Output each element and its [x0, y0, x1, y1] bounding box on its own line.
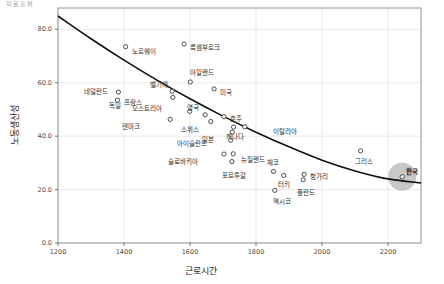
point-label-독일: 독일 — [109, 103, 121, 110]
labor-productivity-scatter-chart: 자료출처 근로시간 노동생산성 0.020.040.060.080.012001… — [0, 0, 444, 284]
x-tick-label: 1800 — [242, 248, 270, 256]
x-tick-label: 1400 — [110, 248, 138, 256]
x-tick-label: 1600 — [176, 248, 204, 256]
data-point-터키 — [282, 173, 286, 177]
data-markers — [115, 42, 404, 193]
data-point-체코 — [271, 169, 275, 173]
y-tick-label: 0.0 — [0, 239, 52, 247]
x-tick-label: 2200 — [374, 248, 402, 256]
point-label-터키: 터키 — [278, 182, 290, 189]
data-point-미국 — [212, 87, 216, 91]
data-point-스위스 — [209, 119, 213, 123]
tick-marks — [55, 29, 388, 246]
point-label-영국: 영국 — [187, 105, 199, 112]
point-label-포르투갈: 포르투갈 — [222, 173, 246, 180]
x-tick-label: 1200 — [44, 248, 72, 256]
point-label-룩셈부르크: 룩셈부르크 — [190, 45, 220, 52]
data-point-포르투갈 — [230, 159, 234, 163]
data-point-아일랜드 — [188, 80, 192, 84]
data-point-노르웨이 — [124, 45, 128, 49]
data-point-그리스 — [359, 149, 363, 153]
point-label-아이슬란드: 아이슬란드 — [177, 141, 207, 148]
point-label-벨기에: 벨기에 — [150, 82, 168, 89]
data-point-룩셈부르크 — [182, 42, 186, 46]
y-tick-label: 20.0 — [0, 186, 52, 194]
point-label-덴마크: 덴마크 — [122, 124, 140, 131]
data-point-슬로바키아 — [222, 152, 226, 156]
y-tick-label: 80.0 — [0, 25, 52, 33]
data-point-한국 — [400, 175, 404, 179]
point-label-한국: 한국 — [406, 169, 418, 176]
data-point-독일 — [171, 95, 175, 99]
data-point-영국 — [203, 113, 207, 117]
data-point-네덜란드 — [116, 90, 120, 94]
data-point-헝가리 — [302, 172, 306, 176]
data-point-뉴질랜드 — [231, 152, 235, 156]
data-point-폴란드 — [301, 178, 305, 182]
point-label-폴란드: 폴란드 — [297, 190, 315, 197]
point-label-캐나다: 캐나다 — [226, 134, 244, 141]
x-tick-label: 2000 — [308, 248, 336, 256]
data-point-이탈리아 — [243, 125, 247, 129]
point-label-호주: 호주 — [230, 116, 242, 123]
point-label-슬로바키아: 슬로바키아 — [168, 159, 198, 166]
point-label-체코: 체코 — [267, 160, 279, 167]
plot-canvas — [0, 0, 444, 284]
point-label-스위스: 스위스 — [181, 127, 199, 134]
data-point-멕시코 — [273, 188, 277, 192]
grid-lines — [58, 8, 421, 243]
data-point-벨기에 — [170, 89, 174, 93]
point-label-네덜란드: 네덜란드 — [84, 89, 108, 96]
data-point-덴마크 — [168, 117, 172, 121]
y-axis-title: 노동생산성 — [8, 95, 21, 155]
point-label-이탈리아: 이탈리아 — [273, 129, 297, 136]
point-label-아일랜드: 아일랜드 — [190, 70, 214, 77]
point-label-그리스: 그리스 — [355, 159, 373, 166]
point-label-오스트리아: 오스트리아 — [132, 106, 162, 113]
y-tick-label: 60.0 — [0, 79, 52, 87]
point-label-뉴질랜드: 뉴질랜드 — [241, 157, 265, 164]
point-label-헝가리: 헝가리 — [310, 174, 328, 181]
data-point-캐나다 — [231, 125, 235, 129]
point-label-노르웨이: 노르웨이 — [132, 49, 156, 56]
point-label-미국: 미국 — [220, 90, 232, 97]
y-tick-label: 40.0 — [0, 132, 52, 140]
point-label-멕시코: 멕시코 — [273, 199, 291, 206]
plot-frame — [58, 8, 421, 243]
x-axis-title: 근로시간 — [185, 264, 217, 277]
data-point-호주 — [222, 115, 226, 119]
